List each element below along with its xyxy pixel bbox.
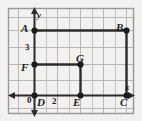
point-label-C: C	[120, 97, 127, 108]
point-label-E: E	[73, 97, 80, 108]
origin-label: 0	[27, 96, 32, 105]
y-axis-label: y	[37, 11, 41, 20]
point-label-B: B	[116, 22, 123, 33]
point-F-dot	[31, 61, 37, 67]
point-label-D: D	[37, 97, 45, 108]
coordinate-grid-figure: A B C D E F G y x 3 2 0	[0, 0, 142, 121]
x-tick-label-2: 2	[52, 97, 57, 106]
point-label-G: G	[76, 53, 84, 64]
point-label-F: F	[21, 62, 28, 73]
x-axis-label: x	[125, 83, 130, 92]
y-tick-label-3: 3	[25, 43, 30, 52]
point-A-dot	[31, 27, 37, 33]
point-label-A: A	[21, 23, 28, 34]
point-B-dot	[123, 27, 129, 33]
